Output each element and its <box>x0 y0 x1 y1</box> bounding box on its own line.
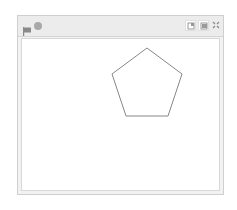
stop-icon[interactable] <box>34 22 42 30</box>
small-stage-button[interactable] <box>185 20 196 31</box>
stage-frame <box>17 15 224 195</box>
pentagon-shape <box>112 48 182 116</box>
green-flag-icon[interactable] <box>23 22 31 31</box>
fullscreen-icon <box>212 21 220 29</box>
stage-header <box>18 16 223 37</box>
small-stage-icon <box>187 22 195 30</box>
normal-stage-icon <box>200 22 208 30</box>
stage-canvas[interactable] <box>21 38 220 191</box>
fullscreen-button[interactable] <box>211 20 222 31</box>
normal-stage-button[interactable] <box>198 20 209 31</box>
